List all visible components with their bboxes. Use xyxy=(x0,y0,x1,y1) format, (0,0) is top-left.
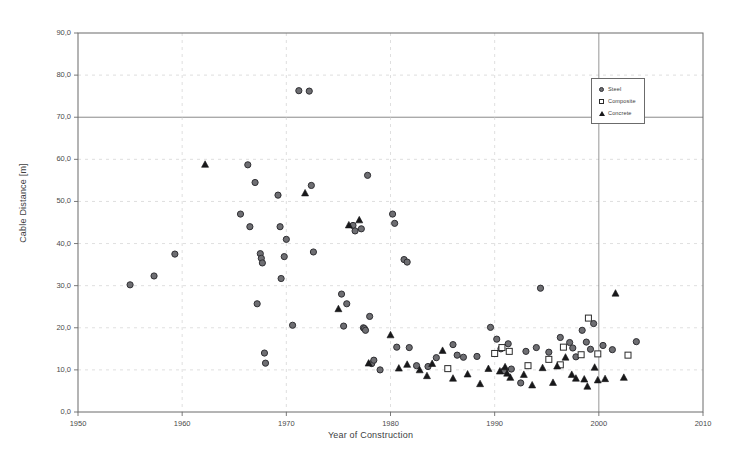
data-point-steel xyxy=(296,88,302,94)
data-point-concrete xyxy=(423,372,430,379)
data-point-concrete xyxy=(568,371,575,378)
data-point-steel xyxy=(245,162,251,168)
data-point-steel xyxy=(310,249,316,255)
legend-item-composite: Composite xyxy=(596,95,640,107)
data-point-concrete xyxy=(529,381,536,388)
data-point-concrete xyxy=(439,347,446,354)
data-point-steel xyxy=(262,360,268,366)
data-point-steel xyxy=(237,211,243,217)
data-point-steel xyxy=(308,182,314,188)
data-point-steel xyxy=(633,339,639,345)
data-point-concrete xyxy=(387,331,394,338)
data-point-steel xyxy=(254,301,260,307)
data-point-steel xyxy=(533,344,539,350)
data-point-composite xyxy=(625,352,631,358)
legend-label-concrete: Concrete xyxy=(608,110,632,116)
data-point-steel xyxy=(281,254,287,260)
y-tick-label: 70,0 xyxy=(33,112,71,121)
data-point-composite xyxy=(560,344,566,350)
filled-triangle-icon xyxy=(596,111,607,116)
data-markers xyxy=(127,88,639,390)
data-point-steel xyxy=(570,345,576,351)
data-point-steel xyxy=(344,301,350,307)
data-point-concrete xyxy=(464,371,471,378)
data-point-steel xyxy=(172,251,178,257)
data-point-composite xyxy=(546,356,552,362)
x-tick-label: 1970 xyxy=(266,419,306,428)
x-tick-label: 2000 xyxy=(579,419,619,428)
data-point-concrete xyxy=(302,189,309,196)
data-point-steel xyxy=(127,282,133,288)
data-point-concrete xyxy=(395,365,402,372)
data-point-steel xyxy=(454,352,460,358)
legend-item-concrete: Concrete xyxy=(596,107,640,119)
data-point-steel xyxy=(557,334,563,340)
data-point-steel xyxy=(338,291,344,297)
data-point-steel xyxy=(306,88,312,94)
data-point-steel xyxy=(352,228,358,234)
data-point-composite xyxy=(595,351,601,357)
data-point-concrete xyxy=(591,364,598,371)
data-point-steel xyxy=(389,211,395,217)
data-point-steel xyxy=(609,347,615,353)
x-tick-label: 1950 xyxy=(58,419,98,428)
x-tick-label: 1990 xyxy=(475,419,515,428)
data-point-steel xyxy=(377,367,383,373)
data-point-steel xyxy=(341,323,347,329)
x-axis-title: Year of Construction xyxy=(0,430,741,440)
y-tick-label: 0,0 xyxy=(33,407,71,416)
data-point-concrete xyxy=(520,371,527,378)
chart-legend: Steel Composite Concrete xyxy=(591,78,645,124)
data-point-concrete xyxy=(450,375,457,382)
data-point-steel xyxy=(283,236,289,242)
data-point-concrete xyxy=(612,290,619,297)
data-point-steel xyxy=(364,172,370,178)
data-point-concrete xyxy=(429,360,436,367)
data-point-steel xyxy=(371,357,377,363)
data-point-steel xyxy=(587,346,593,352)
data-point-steel xyxy=(151,273,157,279)
data-point-concrete xyxy=(502,363,509,370)
data-point-steel xyxy=(579,327,585,333)
data-point-concrete xyxy=(581,376,588,383)
chart-figure: 0,010,020,030,040,050,060,070,080,090,0 … xyxy=(0,0,741,464)
data-point-concrete xyxy=(477,380,484,387)
data-point-composite xyxy=(492,350,498,356)
data-point-concrete xyxy=(485,365,492,372)
data-point-steel xyxy=(261,350,267,356)
data-point-steel xyxy=(275,192,281,198)
data-point-concrete xyxy=(202,161,209,168)
data-point-composite xyxy=(525,363,531,369)
data-point-concrete xyxy=(562,354,569,361)
data-point-concrete xyxy=(602,375,609,382)
x-tick-label: 1960 xyxy=(162,419,202,428)
data-point-steel xyxy=(450,342,456,348)
open-square-icon xyxy=(596,99,607,104)
data-point-steel xyxy=(474,353,480,359)
x-tick-label: 2010 xyxy=(683,419,723,428)
data-point-steel xyxy=(583,339,589,345)
data-point-steel xyxy=(546,349,552,355)
data-point-steel xyxy=(278,275,284,281)
data-point-steel xyxy=(518,380,524,386)
y-tick-label: 40,0 xyxy=(33,239,71,248)
data-point-steel xyxy=(367,313,373,319)
data-point-composite xyxy=(578,352,584,358)
data-point-steel xyxy=(600,342,606,348)
y-tick-label: 10,0 xyxy=(33,365,71,374)
data-point-steel xyxy=(394,344,400,350)
data-point-composite xyxy=(585,315,591,321)
data-point-steel xyxy=(406,344,412,350)
scatter-plot-canvas xyxy=(0,0,741,464)
data-point-steel xyxy=(505,341,511,347)
data-point-steel xyxy=(460,354,466,360)
x-tick-label: 1980 xyxy=(371,419,411,428)
data-point-steel xyxy=(252,179,258,185)
y-tick-label: 30,0 xyxy=(33,281,71,290)
data-point-steel xyxy=(358,226,364,232)
data-point-steel xyxy=(404,259,410,265)
y-axis-title: Cable Distance [m] xyxy=(18,133,28,273)
data-point-steel xyxy=(487,324,493,330)
data-point-steel xyxy=(494,336,500,342)
data-point-concrete xyxy=(335,305,342,312)
